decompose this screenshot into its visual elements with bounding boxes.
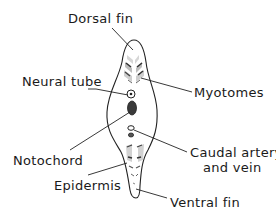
neural-tube bbox=[127, 90, 135, 98]
leader-dorsal-fin bbox=[112, 28, 133, 50]
label-and-vein: and vein bbox=[203, 160, 262, 175]
leader-ventral-fin bbox=[136, 189, 167, 198]
label-neural-tube: Neural tube bbox=[22, 74, 102, 89]
tail-cross-section-diagram: Dorsal fin Neural tube Myotomes Notochor… bbox=[0, 0, 276, 213]
label-notochord: Notochord bbox=[13, 153, 83, 168]
label-epidermis: Epidermis bbox=[54, 178, 121, 193]
label-dorsal-fin: Dorsal fin bbox=[68, 11, 133, 26]
label-caudal-artery: Caudal artery bbox=[190, 145, 276, 160]
leader-epidermis bbox=[88, 163, 127, 175]
label-myotomes: Myotomes bbox=[194, 85, 264, 100]
label-ventral-fin: Ventral fin bbox=[170, 195, 240, 210]
